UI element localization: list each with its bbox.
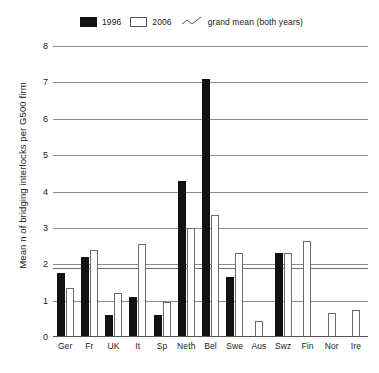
bar-2006-Neth — [187, 228, 195, 337]
x-axis-baseline — [53, 336, 368, 337]
filled-square-icon — [80, 17, 97, 27]
bar-2006-Fr — [90, 250, 98, 337]
x-tick-label: Swz — [271, 341, 295, 351]
chart-legend: 1996 2006 grand mean (both years) — [80, 16, 303, 27]
bar-group — [174, 46, 198, 337]
bar-group — [150, 46, 174, 337]
y-tick-label: 8 — [43, 42, 48, 51]
x-tick-label: Bel — [198, 341, 222, 351]
zigzag-line-icon — [181, 16, 203, 27]
x-tick-label: It — [126, 341, 150, 351]
legend-label-2006: 2006 — [152, 17, 171, 27]
x-tick-label: Neth — [174, 341, 198, 351]
bar-group — [247, 46, 271, 337]
bar-2006-Ger — [66, 288, 74, 337]
bar-2006-Bel — [211, 215, 219, 337]
legend-item-2006: 2006 — [130, 17, 171, 27]
plot-area: 012345678 — [53, 46, 368, 337]
bar-1996-Neth — [178, 181, 186, 337]
bar-1996-Swe — [226, 277, 234, 337]
x-tick-label: Ire — [344, 341, 368, 351]
bar-1996-Sp — [154, 315, 162, 337]
y-axis-title: Mean n of bridging interlocks per G500 f… — [17, 46, 28, 306]
x-tick-label: Swe — [223, 341, 247, 351]
bar-2006-Nor — [328, 313, 336, 337]
y-tick-label: 6 — [43, 114, 48, 123]
bar-1996-Fr — [81, 257, 89, 337]
hollow-square-icon — [130, 17, 147, 27]
bar-group — [198, 46, 222, 337]
legend-item-grand-mean: grand mean (both years) — [181, 16, 303, 27]
bar-group — [223, 46, 247, 337]
bar-group — [271, 46, 295, 337]
bar-1996-Bel — [202, 79, 210, 337]
bar-2006-UK — [114, 293, 122, 337]
bar-group — [344, 46, 368, 337]
bar-groups — [53, 46, 368, 337]
bar-group — [126, 46, 150, 337]
x-tick-label: Fin — [295, 341, 319, 351]
x-axis-labels: GerFrUKItSpNethBelSweAusSwzFinNorIre — [53, 341, 368, 351]
bar-2006-It — [138, 244, 146, 337]
legend-label-1996: 1996 — [102, 17, 121, 27]
bar-2006-Aus — [255, 321, 263, 337]
x-tick-label: Fr — [77, 341, 101, 351]
bar-group — [77, 46, 101, 337]
y-tick-label: 1 — [43, 296, 48, 305]
bar-1996-Ger — [57, 273, 65, 337]
bar-1996-UK — [105, 315, 113, 337]
legend-label-grand-mean: grand mean (both years) — [208, 17, 303, 27]
x-tick-label: Aus — [247, 341, 271, 351]
bar-group — [320, 46, 344, 337]
bar-2006-Swe — [235, 253, 243, 337]
y-tick-label: 3 — [43, 223, 48, 232]
bar-group — [295, 46, 319, 337]
y-tick-label: 0 — [43, 333, 48, 342]
bar-2006-Swz — [284, 253, 292, 337]
bar-2006-Sp — [163, 302, 171, 337]
x-tick-label: Ger — [53, 341, 77, 351]
bar-chart: 1996 2006 grand mean (both years) Mean n… — [0, 0, 379, 373]
bar-2006-Fin — [303, 241, 311, 337]
bar-1996-It — [129, 297, 137, 337]
x-tick-label: Nor — [320, 341, 344, 351]
legend-item-1996: 1996 — [80, 17, 121, 27]
x-tick-label: UK — [101, 341, 125, 351]
y-tick-label: 5 — [43, 151, 48, 160]
y-tick-label: 7 — [43, 78, 48, 87]
bar-group — [53, 46, 77, 337]
bar-2006-Ire — [352, 310, 360, 337]
bar-1996-Swz — [275, 253, 283, 337]
y-tick-label: 4 — [43, 187, 48, 196]
y-tick-label: 2 — [43, 260, 48, 269]
x-tick-label: Sp — [150, 341, 174, 351]
bar-group — [101, 46, 125, 337]
